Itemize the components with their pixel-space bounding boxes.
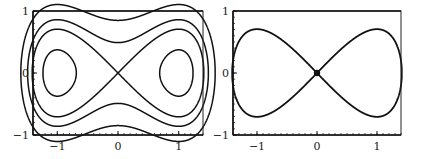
curve-inner-orbit-right [160, 50, 193, 96]
origin-dense-point [314, 70, 320, 76]
x-tick-label: −1 [49, 140, 65, 153]
chart-panel-1: −101−101 [13, 5, 215, 153]
x-tick-label: −1 [249, 140, 265, 153]
x-tick-label: 1 [175, 140, 182, 153]
x-tick-label: 0 [314, 140, 321, 153]
y-tick-label: −1 [213, 129, 229, 142]
curve-inner-orbit-left [43, 50, 76, 96]
y-tick-label: 1 [22, 5, 29, 18]
chart-panel-2: −101−101 [213, 5, 402, 153]
y-tick-label: 0 [222, 67, 229, 80]
x-tick-label: 1 [374, 140, 381, 153]
figure: −101−101−101−101 [0, 0, 423, 159]
y-tick-label: 0 [22, 67, 29, 80]
y-tick-label: −1 [13, 129, 29, 142]
y-tick-label: 1 [222, 5, 229, 18]
x-tick-label: 0 [115, 140, 122, 153]
